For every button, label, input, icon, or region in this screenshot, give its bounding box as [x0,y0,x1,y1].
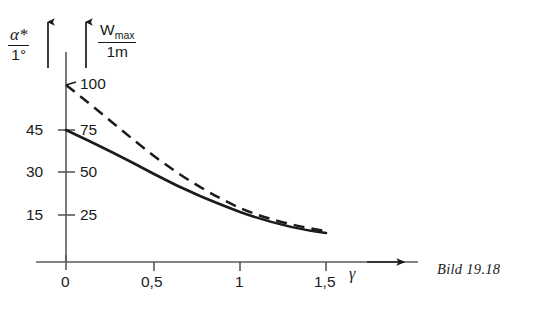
figure-caption: Bild 19.18 [437,261,500,278]
x-tick-marks [66,255,326,271]
curve-alpha-solid [66,130,326,233]
left-axis-numerator: α* [8,26,29,45]
x-tick-label-1: 1 [235,274,244,290]
y-tick-label-alpha-30: 30 [26,164,43,180]
x-axis-label-gamma: γ [349,265,355,283]
x-tick-label-0: 0 [61,274,70,290]
y-tick-label-w-75: 75 [80,122,97,138]
figure-container: α* 1° Wmax 1m 45 30 15 100 75 50 25 0 0,… [0,0,554,313]
left-axis-denominator: 1° [8,45,29,64]
right-axis-denominator: 1m [98,42,136,61]
right-axis-label: Wmax 1m [98,22,136,61]
y-tick-label-alpha-15: 15 [26,207,43,223]
x-tick-label-0-5: 0,5 [141,274,163,290]
y-tick-label-w-25: 25 [80,207,97,223]
left-axis-label: α* 1° [8,26,29,64]
curve-wmax-dashed [66,85,326,231]
right-axis-numerator: Wmax [98,22,136,42]
y-tick-label-alpha-45: 45 [26,122,43,138]
y-tick-label-w-100: 100 [80,76,106,92]
x-tick-label-1-5: 1,5 [314,274,336,290]
w-100-leader-tick [66,82,76,85]
y-tick-label-w-50: 50 [80,164,97,180]
